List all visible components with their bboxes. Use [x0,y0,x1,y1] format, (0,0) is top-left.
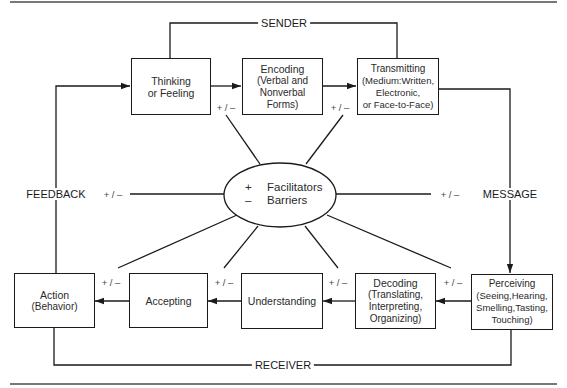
receiver-label: RECEIVER [252,359,314,371]
action-box: Action (Behavior) [14,273,95,328]
understanding-box: Understanding [241,273,323,329]
thinking-box: Thinking or Feeling [131,58,211,115]
thinking-line1: Thinking [151,75,191,87]
facilitators-barriers: +Facilitators –Barriers [245,181,323,207]
accepting-box: Accepting [129,273,208,328]
barriers-text: Barriers [267,194,307,207]
encoding-line1: Encoding [261,63,305,75]
transmitting-line1: Transmitting [371,63,426,75]
understanding-line1: Understanding [248,295,316,307]
action-line2: (Behavior) [31,301,77,313]
accepting-line1: Accepting [145,295,191,307]
encoding-line2: (Verbal and [257,75,308,87]
decoding-line1: Decoding [373,277,417,289]
influence-marker-accepting: + / – [215,277,234,288]
transmitting-line2: (Medium:Written, [362,75,434,87]
perceiving-box: Perceiving (Seeing,Hearing, Smelling,Tas… [471,274,553,330]
perceiving-line3: Smelling,Tasting, [476,302,548,314]
transmitting-box: Transmitting (Medium:Written, Electronic… [357,58,439,115]
facilitators-text: Facilitators [267,181,323,194]
perceiving-line4: Touching) [491,314,532,326]
influence-marker-decoding: + / – [444,277,463,288]
influence-marker-message: + / – [441,189,460,200]
transmitting-line3: Electronic, [376,87,420,99]
influence-marker-understanding: + / – [329,277,348,288]
transmitting-line4: or Face-to-Face) [363,99,434,111]
influence-marker-feedback: + / – [104,189,123,200]
plus-symbol: + [245,181,267,194]
decoding-box: Decoding (Translating, Interpreting, Org… [355,273,436,329]
thinking-line2: or Feeling [148,87,195,99]
encoding-line3: Nonverbal [260,87,306,99]
influence-marker-encoding: + / – [331,102,350,113]
perceiving-line2: (Seeing,Hearing, [476,290,547,302]
minus-symbol: – [245,194,267,207]
decoding-line2: (Translating, [368,289,423,301]
influence-marker-thinking: + / – [217,102,236,113]
feedback-label: FEEDBACK [23,188,88,200]
action-line1: Action [40,289,69,301]
encoding-line4: Forms) [267,99,299,111]
decoding-line4: Organizing) [370,313,422,325]
sender-label: SENDER [258,17,310,29]
perceiving-line1: Perceiving [489,278,536,290]
decoding-line3: Interpreting, [369,301,422,313]
message-label: MESSAGE [480,188,540,200]
encoding-box: Encoding (Verbal and Nonverbal Forms) [242,58,323,115]
influence-marker-action: + / – [102,277,121,288]
